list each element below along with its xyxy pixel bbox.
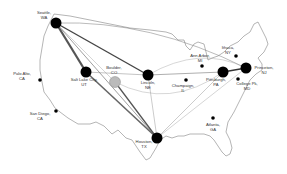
label-state: NE (141, 86, 155, 91)
label-state: MI (190, 59, 210, 64)
label-annarbor: Ann Arbor,MI (190, 54, 210, 63)
label-atlanta: Atlanta,GA (206, 123, 220, 132)
node-boulder (110, 77, 121, 88)
link-houston-princeton (157, 68, 246, 138)
label-boulder: Boulder,CO (106, 66, 121, 75)
label-state: GA (206, 128, 220, 133)
label-pittsburgh: Pittsburgh,PA (206, 78, 226, 87)
label-state: NY (222, 51, 235, 56)
node-lincoln (143, 70, 154, 81)
node-paloalto (38, 78, 42, 82)
label-state: NJ (255, 71, 274, 76)
label-state: TX (136, 145, 153, 150)
label-paloalto: Palo Alto,CA (13, 72, 31, 81)
label-state: CA (13, 77, 31, 82)
label-state: IL (172, 89, 195, 94)
label-seattle: Seattle,WA (37, 11, 51, 20)
label-state: CO (106, 71, 121, 76)
node-pittsburgh (218, 67, 229, 78)
node-sandiego (54, 109, 58, 113)
label-state: PA (206, 83, 226, 88)
network-arc (56, 23, 246, 68)
node-seattle (51, 18, 62, 29)
node-saltlake (81, 67, 92, 78)
label-sandiego: San Diego,CA (30, 112, 51, 121)
label-state: WA (37, 16, 51, 21)
node-atlanta (211, 116, 215, 120)
label-state: MD (236, 87, 257, 92)
label-houston: Houston,TX (136, 140, 153, 149)
node-champaign (184, 78, 188, 82)
label-state: CA (30, 117, 51, 122)
label-state: UT (71, 83, 98, 88)
label-lincoln: Lincoln,NE (141, 81, 155, 90)
node-ithaca (234, 54, 238, 58)
node-annarbor (200, 64, 204, 68)
link-seattle-lincoln (56, 23, 148, 75)
label-champaign: Champaign,IL (172, 84, 195, 93)
label-collegepk: College Pk,MD (236, 82, 257, 91)
node-houston (152, 133, 163, 144)
link-lincoln-pittsburgh (148, 72, 223, 75)
label-saltlake: Salt Lake City,UT (71, 78, 98, 87)
node-princeton (241, 63, 252, 74)
link-seattle-saltlake (56, 23, 86, 72)
label-princeton: Princeton,NJ (255, 66, 274, 75)
label-ithaca: Ithaca,NY (222, 46, 235, 55)
